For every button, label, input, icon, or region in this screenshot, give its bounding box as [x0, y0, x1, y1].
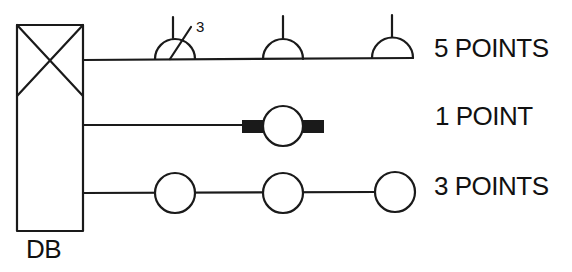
circuit-3-wire — [83, 192, 375, 193]
circuit-1-point — [83, 106, 324, 146]
annotation-label: 3 — [196, 19, 204, 34]
circle-lamp-icon — [263, 173, 303, 213]
circle-lamp-with-bars-icon — [242, 106, 324, 146]
distribution-board-label: DB — [26, 236, 61, 262]
circuit-1-wire — [83, 58, 413, 60]
circuit-label-1-point: 1 POINT — [435, 103, 533, 129]
semicircle-lamp-icon — [372, 15, 413, 58]
distribution-board — [17, 25, 83, 231]
circuit-label-3-points: 3 POINTS — [434, 173, 548, 199]
circuit-5-points — [83, 15, 413, 60]
circuit-label-5-points: 5 POINTS — [434, 35, 548, 61]
semicircle-lamp-icon — [263, 16, 303, 59]
semicircle-lamp-icon — [155, 17, 195, 59]
distribution-board-box — [17, 25, 83, 231]
circle-lamp-icon — [375, 172, 415, 212]
circuit-3-points — [83, 172, 415, 213]
circle-lamp-icon — [155, 173, 195, 213]
